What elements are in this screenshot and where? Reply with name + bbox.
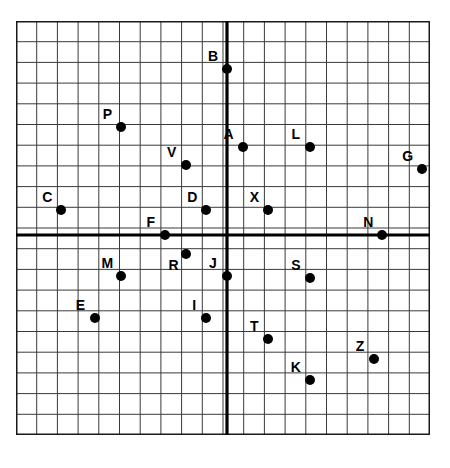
plot-point-a[interactable]	[238, 142, 248, 152]
plot-point-t[interactable]	[263, 334, 273, 344]
plot-point-l[interactable]	[305, 142, 315, 152]
point-label-a: A	[223, 127, 233, 141]
point-label-r: R	[169, 258, 179, 272]
coordinate-plane-figure: BPALGVCDXFNRMJSEITZK	[0, 0, 450, 468]
plot-point-r[interactable]	[181, 249, 191, 259]
plot-point-v[interactable]	[181, 160, 191, 170]
point-label-m: M	[102, 256, 114, 270]
point-label-j: J	[209, 256, 217, 270]
point-label-v: V	[167, 145, 176, 159]
point-label-n: N	[363, 215, 373, 229]
point-label-i: I	[192, 298, 196, 312]
point-label-t: T	[250, 319, 259, 333]
point-label-k: K	[291, 360, 301, 374]
point-label-f: F	[147, 215, 156, 229]
plot-point-k[interactable]	[305, 375, 315, 385]
point-label-l: L	[292, 127, 301, 141]
point-label-c: C	[42, 190, 52, 204]
point-label-p: P	[103, 107, 112, 121]
plot-point-g[interactable]	[417, 164, 427, 174]
point-label-z: Z	[356, 339, 365, 353]
point-label-d: D	[187, 190, 197, 204]
point-label-g: G	[402, 149, 413, 163]
point-label-s: S	[291, 258, 300, 272]
plot-point-f[interactable]	[160, 230, 170, 240]
point-label-b: B	[208, 49, 218, 63]
point-label-x: X	[250, 190, 259, 204]
point-label-e: E	[76, 298, 85, 312]
plot-area: BPALGVCDXFNRMJSEITZK	[16, 21, 430, 435]
plot-point-e[interactable]	[90, 313, 100, 323]
